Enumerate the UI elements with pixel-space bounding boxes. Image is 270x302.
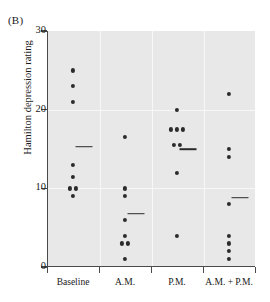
mean-marker — [128, 213, 145, 215]
x-axis-tick-label-p-m: P.M. — [151, 277, 203, 287]
mean-marker — [76, 146, 93, 148]
x-axis-tick — [255, 267, 256, 273]
y-axis-tick-label: 30 — [18, 24, 46, 35]
x-axis-tick-label-a-m: A.M. — [99, 277, 151, 287]
gridline-vertical — [100, 31, 101, 266]
x-axis-tick-label-baseline: Baseline — [47, 277, 99, 287]
y-axis-tick-label: 10 — [18, 181, 46, 192]
y-axis-tick-label: 0 — [18, 260, 46, 271]
plot-area — [47, 31, 255, 267]
gridline-vertical — [152, 31, 153, 266]
mean-marker — [232, 197, 249, 199]
mean-marker — [180, 148, 197, 150]
gridline-vertical — [204, 31, 205, 266]
x-axis-tick — [151, 267, 152, 273]
x-axis-tick — [203, 267, 204, 273]
x-axis-tick-label-a-m-p-m: A.M. + P.M. — [203, 277, 255, 287]
figure-panel-b: (B) Hamilton depression rating 0102030Ba… — [0, 0, 270, 302]
x-axis-tick — [47, 267, 48, 273]
x-axis-tick — [99, 267, 100, 273]
y-axis-tick-label: 20 — [18, 103, 46, 114]
